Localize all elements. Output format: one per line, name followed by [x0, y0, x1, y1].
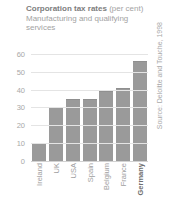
y-axis-tick-label: 30	[17, 103, 25, 112]
x-axis-label-slot: Germany	[133, 163, 147, 209]
x-axis-baseline	[31, 161, 148, 162]
bar	[49, 107, 63, 161]
x-axis-tick-label: USA	[68, 163, 77, 178]
x-axis-labels: IrelandUKUSASpainBelgiumFranceGermany	[31, 163, 148, 211]
gridline	[31, 125, 148, 126]
chart-title: Corporation tax rates	[26, 4, 107, 13]
bar	[133, 61, 147, 161]
gridline	[31, 72, 148, 73]
x-axis-tick-label: Germany	[135, 163, 144, 196]
chart-source: Source: Deloitte and Touche, 1998	[152, 22, 166, 162]
x-axis-tick-label: France	[118, 163, 127, 186]
x-axis-label-slot: Belgium	[99, 163, 113, 209]
y-axis-tick-label: 40	[17, 85, 25, 94]
x-axis-label-slot: UK	[49, 163, 63, 209]
gridline	[31, 90, 148, 91]
x-axis-tick-label: Belgium	[102, 163, 111, 190]
bar	[32, 143, 46, 161]
gridline	[31, 143, 148, 144]
x-axis-label-slot: Ireland	[32, 163, 46, 209]
x-axis-tick-label: UK	[52, 163, 61, 173]
chart-source-text: Source: Deloitte and Touche, 1998	[156, 22, 163, 129]
chart-subtitle-line-1: Manufacturing and qualifying	[26, 14, 148, 24]
gridline	[31, 54, 148, 55]
plot-area	[31, 45, 148, 162]
chart-figure: Corporation tax rates (per cent) Manufac…	[0, 0, 173, 213]
x-axis-label-slot: USA	[66, 163, 80, 209]
gridline	[31, 107, 148, 108]
x-axis-tick-label: Ireland	[35, 163, 44, 186]
x-axis-label-slot: Spain	[83, 163, 97, 209]
y-axis-tick-label: 0	[21, 157, 25, 166]
y-axis-tick-label: 50	[17, 67, 25, 76]
chart-title-line-1: Corporation tax rates (per cent)	[26, 4, 148, 14]
y-axis-tick-label: 60	[17, 49, 25, 58]
y-axis-tick-label: 10	[17, 139, 25, 148]
x-axis-tick-label: Spain	[85, 163, 94, 182]
chart-title-units: (per cent)	[109, 4, 143, 13]
y-axis: 0102030405060	[0, 45, 28, 162]
chart-subtitle-line-2: services	[26, 23, 148, 33]
x-axis-label-slot: France	[116, 163, 130, 209]
chart-title-block: Corporation tax rates (per cent) Manufac…	[26, 4, 148, 33]
y-axis-tick-label: 20	[17, 121, 25, 130]
